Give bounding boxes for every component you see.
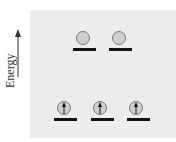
energy-level-line (127, 118, 150, 121)
orbital-circle-icon (112, 31, 126, 45)
electron-spin-up-arrow-icon (61, 102, 67, 114)
energy-level-line (54, 118, 77, 121)
energy-axis-label: Energy (3, 54, 18, 88)
electron-spin-up-arrow-icon (97, 102, 103, 114)
electron-spin-up-arrow-icon (133, 102, 139, 114)
energy-level-line (73, 48, 96, 51)
orbital-circle-icon (76, 31, 90, 45)
energy-level-line (109, 48, 132, 51)
energy-level-line (91, 118, 114, 121)
